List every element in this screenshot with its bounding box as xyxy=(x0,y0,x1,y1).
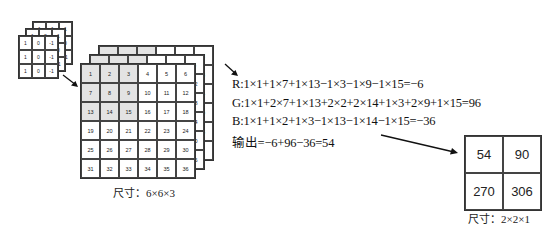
input-cell: 16 xyxy=(138,102,157,121)
input-cell: 21 xyxy=(119,121,138,140)
input-cell: 17 xyxy=(157,102,176,121)
input-cell: 8 xyxy=(100,83,119,102)
input-cell: 29 xyxy=(157,140,176,159)
arrow-icon xyxy=(380,134,460,156)
input-layer-1: 1 2 3 4 5 6 7 8 9 10 11 12 13 14 15 16 1… xyxy=(80,63,196,179)
input-cell: 14 xyxy=(100,102,119,121)
kernel-cell: -1 xyxy=(45,50,58,64)
input-cell: 7 xyxy=(81,83,100,102)
input-cell: 25 xyxy=(81,140,100,159)
input-cell: 15 xyxy=(119,102,138,121)
kernel-cell: -1 xyxy=(45,64,58,78)
output-cell: 306 xyxy=(503,173,541,210)
output-cell: 54 xyxy=(465,136,503,173)
input-cell: 36 xyxy=(176,159,195,178)
input-cell: 4 xyxy=(138,64,157,83)
input-cell: 18 xyxy=(176,102,195,121)
input-cell: 28 xyxy=(138,140,157,159)
kernel-cell: 1 xyxy=(19,64,32,78)
input-cell: 2 xyxy=(100,64,119,83)
arrow-icon xyxy=(224,63,240,77)
input-cell: 35 xyxy=(157,159,176,178)
input-cell: 1 xyxy=(81,64,100,83)
equation-r: R:1×1+1×7+1×13−1×3−1×9−1×15=−6 xyxy=(232,77,423,92)
output-grid: 54 90 270 306 xyxy=(464,135,542,211)
kernel-cell: -1 xyxy=(45,36,58,50)
input-cell: 22 xyxy=(138,121,157,140)
kernel-cell: 1 xyxy=(19,50,32,64)
kernel-cell: 0 xyxy=(32,50,45,64)
kernel-cell: 0 xyxy=(32,64,45,78)
input-cell: 31 xyxy=(81,159,100,178)
input-cell: 5 xyxy=(157,64,176,83)
input-cell: 34 xyxy=(138,159,157,178)
input-cell: 27 xyxy=(119,140,138,159)
input-size-caption: 尺寸：6×6×3 xyxy=(113,184,175,200)
kernel-cell: 1 xyxy=(19,36,32,50)
input-cell: 11 xyxy=(157,83,176,102)
arrow-icon xyxy=(62,74,80,88)
input-cell: 24 xyxy=(176,121,195,140)
input-cell: 33 xyxy=(119,159,138,178)
input-cell: 23 xyxy=(157,121,176,140)
input-cell: 3 xyxy=(119,64,138,83)
output-size-caption: 尺寸：2×2×1 xyxy=(468,210,530,226)
equation-g: G:1×1+2×7+1×13+2×2+2×14+1×3+2×9+1×15=96 xyxy=(232,96,481,111)
input-cell: 13 xyxy=(81,102,100,121)
output-cell: 90 xyxy=(503,136,541,173)
input-cell: 9 xyxy=(119,83,138,102)
input-cell: 30 xyxy=(176,140,195,159)
output-cell: 270 xyxy=(465,173,503,210)
input-cell: 12 xyxy=(176,83,195,102)
kernel-cell: 0 xyxy=(32,36,45,50)
input-cell: 26 xyxy=(100,140,119,159)
equation-output: 输出=−6+96−36=54 xyxy=(232,132,334,151)
input-cell: 6 xyxy=(176,64,195,83)
kernel-layer-r: 1 0 -1 1 0 -1 1 0 -1 xyxy=(18,35,59,79)
input-cell: 10 xyxy=(138,83,157,102)
input-cell: 32 xyxy=(100,159,119,178)
input-cell: 19 xyxy=(81,121,100,140)
equation-b: B:1×1+1×2+1×3−1×13−1×14−1×15=−36 xyxy=(232,114,435,129)
input-cell: 20 xyxy=(100,121,119,140)
